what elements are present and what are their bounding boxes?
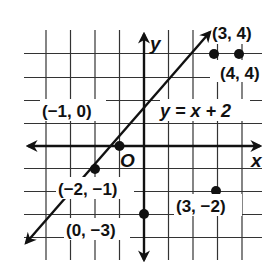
point-label-4-4: (4, 4) <box>220 64 260 83</box>
x-axis-label: x <box>250 150 263 171</box>
equation-label: y = x + 2 <box>159 101 231 121</box>
coordinate-plane: y x O (3, 4) (4, 4) (−1, 0) y = x + 2 (−… <box>0 0 280 265</box>
point-3-4 <box>209 49 219 59</box>
point-label-3-neg2: (3, −2) <box>176 197 226 216</box>
point-0-neg3 <box>139 209 149 219</box>
point-label-neg1-0: (−1, 0) <box>42 102 92 121</box>
point-label-neg2-neg1: (−2, −1) <box>58 180 118 199</box>
point-neg2-neg1 <box>90 164 100 174</box>
y-axis-label: y <box>149 33 162 54</box>
point-4-4 <box>234 49 244 59</box>
point-label-3-4: (3, 4) <box>212 24 252 43</box>
point-label-0-neg3: (0, −3) <box>66 221 116 240</box>
origin-label: O <box>120 150 135 171</box>
